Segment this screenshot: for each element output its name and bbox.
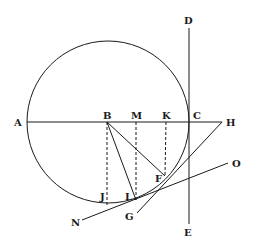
point-label-g: G (125, 211, 134, 222)
geometry-diagram: ABMKCHDEFLJGNO (0, 0, 257, 247)
point-label-d: D (184, 15, 193, 26)
diagram-canvas: ABMKCHDEFLJGNO (0, 0, 257, 247)
line-hg (137, 122, 222, 213)
point-label-c: C (193, 110, 201, 121)
point-label-k: K (162, 110, 171, 121)
point-label-b: B (103, 110, 111, 121)
dashed-line-kf (165, 122, 166, 176)
line-bl (107, 122, 136, 200)
point-label-o: O (232, 158, 241, 169)
point-label-f: F (155, 173, 162, 184)
point-label-a: A (13, 117, 22, 128)
point-label-h: H (226, 117, 235, 128)
point-label-e: E (184, 227, 192, 238)
point-label-m: M (131, 110, 142, 121)
point-label-n: N (71, 217, 80, 228)
point-label-j: J (99, 191, 105, 202)
point-label-l: L (125, 191, 132, 202)
